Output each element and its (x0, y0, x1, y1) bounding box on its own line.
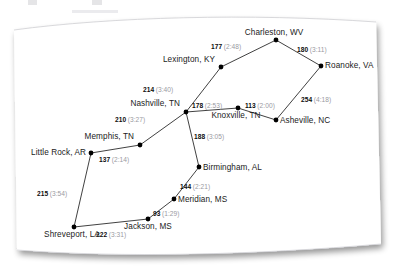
edge-label: 137(2:14) (99, 156, 129, 163)
edge-distance: 113 (245, 102, 256, 109)
label-layer: Charleston, WVRoanoke, VALexington, KYAs… (0, 0, 396, 278)
edge-time: (1:29) (162, 210, 180, 217)
edge-label: 215(3:54) (37, 190, 67, 197)
edge-distance: 177 (211, 43, 222, 50)
edge-distance: 222 (96, 231, 107, 238)
edge-label: 178(2:53) (192, 102, 222, 109)
edge-distance: 144 (180, 183, 191, 190)
edge-distance: 178 (192, 102, 203, 109)
edge-time: (3:54) (50, 190, 68, 197)
edge-time: (4:18) (314, 96, 332, 103)
edge-time: (3:11) (310, 46, 327, 53)
edge-label: 93(1:29) (153, 210, 180, 217)
edge-distance: 254 (301, 96, 312, 103)
edge-label: 113(2:00) (245, 102, 275, 109)
node-label: Little Rock, AR (31, 148, 86, 157)
edge-time: (3:31) (109, 231, 127, 238)
edge-label: 222(3:31) (96, 231, 126, 238)
edge-time: (3:27) (128, 116, 146, 123)
edge-label: 144(2:21) (180, 183, 210, 190)
edge-label: 210(3:27) (115, 116, 145, 123)
node-label: Lexington, KY (163, 55, 215, 64)
node-label: Shreveport, LA (44, 230, 100, 239)
node-label: Memphis, TN (85, 132, 134, 141)
figure-container: Charleston, WVRoanoke, VALexington, KYAs… (0, 0, 396, 278)
node-label: Charleston, WV (245, 28, 303, 37)
edge-label: 188(3:05) (194, 133, 224, 140)
edge-label: 214(3:40) (143, 86, 173, 93)
node-label: Jackson, MS (124, 222, 172, 231)
node-label: Meridian, MS (178, 195, 227, 204)
edge-distance: 210 (115, 116, 126, 123)
edge-distance: 93 (153, 210, 160, 217)
edge-distance: 188 (194, 133, 205, 140)
edge-time: (2:21) (193, 183, 211, 190)
edge-distance: 215 (37, 190, 48, 197)
edge-label: 177(2:48) (211, 43, 241, 50)
node-label: Knoxville, TN (211, 111, 260, 120)
edge-time: (2:48) (224, 43, 242, 50)
edge-time: (2:00) (257, 102, 275, 109)
node-label: Nashville, TN (130, 99, 180, 108)
node-label: Roanoke, VA (325, 61, 374, 70)
edge-label: 254(4:18) (301, 96, 331, 103)
edge-distance: 214 (143, 86, 154, 93)
edge-time: (2:14) (112, 156, 130, 163)
edge-time: (2:53) (205, 102, 223, 109)
edge-time: (3:05) (207, 133, 225, 140)
edge-time: (3:40) (156, 86, 174, 93)
edge-label: 180(3:11) (297, 46, 327, 53)
node-label: Birmingham, AL (203, 163, 262, 172)
edge-distance: 180 (297, 46, 308, 53)
edge-distance: 137 (99, 156, 110, 163)
node-label: Asheville, NC (280, 116, 330, 125)
